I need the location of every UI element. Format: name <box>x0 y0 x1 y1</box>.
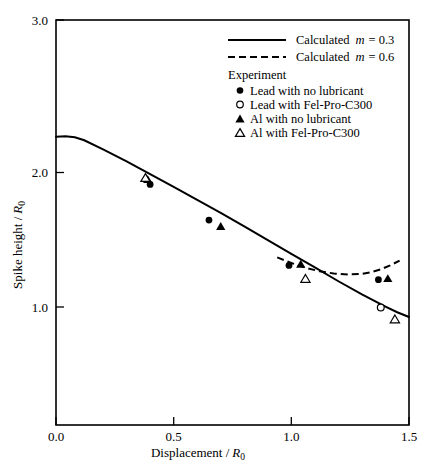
y-tick-label-3: 3.0 <box>32 13 48 28</box>
x-axis-title-main: Displacement / <box>151 445 230 460</box>
x-tick-label-2: 1.0 <box>283 429 299 444</box>
legend-label-lead-felpro: Lead with Fel-Pro-C300 <box>250 98 372 112</box>
x-axis-title-sub: 0 <box>240 452 245 462</box>
x-tick-label-0: 0.0 <box>48 429 64 444</box>
x-axis-ticks <box>56 417 409 425</box>
y-axis-title-sub: 0 <box>17 201 27 206</box>
legend: Calculatedm= 0.3 Calculatedm= 0.6 Experi… <box>228 33 394 140</box>
legend-label-calculated-m03: Calculatedm= 0.3 <box>296 33 394 47</box>
data-point-open-triangle-2 <box>390 315 399 323</box>
legend-label-calculated-m06: Calculatedm= 0.6 <box>296 50 394 64</box>
chart-figure: 3.0 2.0 1.0 0.0 0.5 1.0 1.5 Displacement… <box>0 0 428 473</box>
y-axis-title-main: Spike height / <box>10 216 25 289</box>
x-axis-title-var: R <box>231 445 240 460</box>
data-point-filled-triangle-3 <box>383 274 392 282</box>
scatter-plot: 3.0 2.0 1.0 0.0 0.5 1.0 1.5 Displacement… <box>0 0 428 473</box>
y-axis-title-var: R <box>10 206 25 215</box>
legend-swatch-filled-triangle <box>235 115 244 123</box>
legend-swatch-open-circle <box>237 101 244 108</box>
data-point-filled-circle-1 <box>206 217 213 224</box>
y-tick-label-2: 2.0 <box>32 165 48 180</box>
legend-swatch-open-triangle <box>235 129 244 137</box>
data-point-filled-triangle-1 <box>216 222 225 230</box>
data-point-open-circle-0 <box>377 304 384 311</box>
y-tick-label-1: 1.0 <box>32 300 48 315</box>
legend-label-al-felpro: Al with Fel-Pro-C300 <box>250 126 360 140</box>
x-tick-label-1: 0.5 <box>166 429 182 444</box>
data-point-open-triangle-1 <box>301 274 310 282</box>
x-axis-title: Displacement /R0 <box>151 445 245 462</box>
curve-calculated-m03 <box>56 136 409 317</box>
legend-label-al-no-lubricant: Al with no lubricant <box>250 112 352 126</box>
data-markers-layer <box>141 174 400 323</box>
legend-swatch-filled-circle <box>237 87 244 94</box>
y-axis-ticks <box>56 20 64 307</box>
svg-text:Displacement /R0: Displacement /R0 <box>151 445 245 462</box>
x-tick-label-3: 1.5 <box>401 429 417 444</box>
data-point-filled-circle-3 <box>375 276 382 283</box>
data-point-filled-circle-2 <box>286 262 293 269</box>
legend-header-experiment: Experiment <box>228 68 287 82</box>
y-axis-title: Spike height /R0 <box>10 201 27 289</box>
legend-label-lead-no-lubricant: Lead with no lubricant <box>250 84 364 98</box>
curve-calculated-m06 <box>277 257 399 274</box>
svg-text:Spike height /R0: Spike height /R0 <box>10 201 27 289</box>
